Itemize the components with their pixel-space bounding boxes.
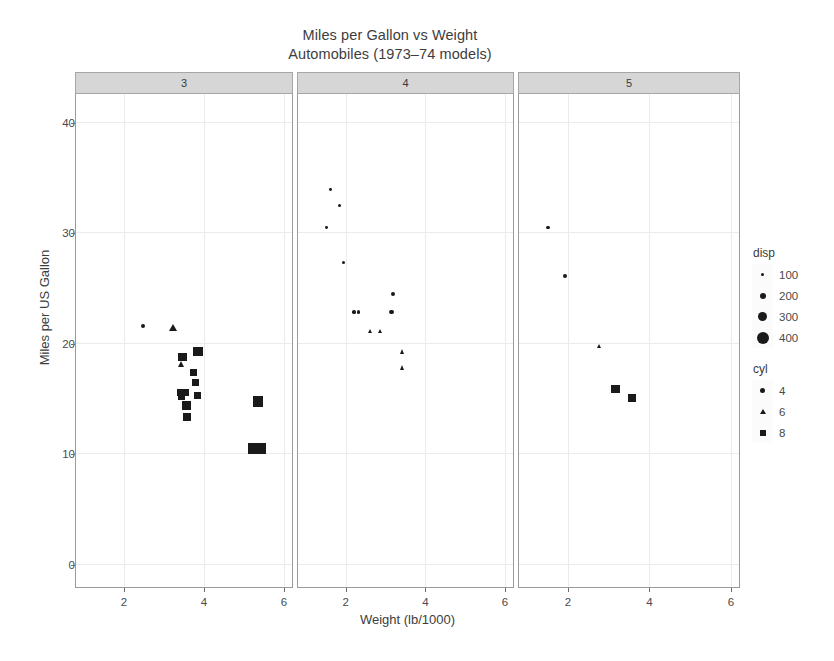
data-point [368, 329, 372, 333]
legend-item[interactable]: 100 [752, 264, 798, 285]
legend-label: 4 [779, 385, 785, 397]
gridline-horizontal [519, 122, 739, 123]
legend-glyph [760, 293, 766, 299]
data-point [338, 204, 341, 207]
x-tick-mark [505, 588, 506, 592]
x-tick-mark [284, 588, 285, 592]
chart-root: Miles per Gallon vs Weight Automobiles (… [0, 0, 834, 661]
legend-item[interactable]: 6 [752, 401, 785, 422]
legend-label: 300 [779, 311, 798, 323]
gridline-vertical [425, 94, 426, 587]
data-point [400, 365, 404, 370]
legend-label: 200 [779, 290, 798, 302]
legend-label: 400 [779, 332, 798, 344]
data-point [400, 349, 404, 354]
facet-strip-label: 5 [518, 72, 740, 94]
gridline-horizontal [519, 232, 739, 233]
data-point [325, 226, 328, 229]
data-point [389, 310, 393, 314]
legend-item[interactable]: 4 [752, 380, 785, 401]
facet-strip-label: 3 [75, 72, 293, 94]
data-point [352, 310, 356, 314]
legend-label: 6 [779, 406, 785, 418]
gridline-horizontal [298, 343, 513, 344]
chart-subtitle: Automobiles (1973–74 models) [0, 45, 780, 64]
legend-glyph [757, 332, 769, 344]
data-point [329, 188, 332, 191]
x-axis-label: Weight (lb/1000) [75, 612, 740, 627]
data-point [141, 324, 145, 328]
legend-disp: disp100200300400 [752, 246, 798, 348]
data-point [628, 394, 635, 401]
legend-item[interactable]: 200 [752, 285, 798, 306]
data-point [192, 379, 199, 386]
legend-glyph [761, 273, 764, 276]
gridline-horizontal [76, 232, 292, 233]
legend-glyph [760, 388, 765, 393]
legend-key-circle-icon [752, 306, 773, 327]
gridline-vertical [124, 94, 125, 587]
data-point [178, 353, 187, 362]
legend-cyl: cyl468 [752, 362, 785, 443]
x-tick-mark [649, 588, 650, 592]
data-point [183, 413, 192, 422]
x-tick-label: 2 [121, 596, 127, 608]
x-tick-label: 6 [281, 596, 287, 608]
data-point [193, 347, 203, 357]
data-point [194, 392, 201, 399]
data-point [169, 324, 177, 331]
page-title: Miles per Gallon vs Weight [0, 26, 780, 45]
gridline-horizontal [76, 122, 292, 123]
x-tick-label: 6 [502, 596, 508, 608]
x-tick-mark [346, 588, 347, 592]
data-point [256, 443, 267, 454]
legend-item[interactable]: 400 [752, 327, 798, 348]
data-point [253, 396, 263, 406]
data-point [378, 329, 382, 333]
plot-area [297, 94, 514, 588]
facet-panel: 3 [75, 72, 293, 588]
gridline-vertical [505, 94, 506, 587]
plot-area [518, 94, 740, 588]
facet-panel: 4 [297, 72, 514, 588]
legend-item[interactable]: 8 [752, 422, 785, 443]
data-point [611, 385, 620, 394]
x-tick-mark [568, 588, 569, 592]
data-point [178, 392, 186, 400]
legend-key-circle-icon [752, 285, 773, 306]
gridline-vertical [731, 94, 732, 587]
x-tick-mark [731, 588, 732, 592]
legend-glyph [760, 430, 766, 436]
facet-strip-label: 4 [297, 72, 514, 94]
title-block: Miles per Gallon vs Weight Automobiles (… [0, 26, 780, 63]
legend-key-circle-icon [752, 380, 773, 401]
data-point [190, 369, 197, 376]
gridline-vertical [204, 94, 205, 587]
gridline-horizontal [76, 343, 292, 344]
gridline-horizontal [76, 564, 292, 565]
x-tick-label: 4 [201, 596, 207, 608]
facet-panel: 5 [518, 72, 740, 588]
x-tick-label: 6 [728, 596, 734, 608]
y-axis-ticks: 010203040 [42, 0, 75, 661]
x-tick-label: 2 [343, 596, 349, 608]
x-tick-mark [425, 588, 426, 592]
legend-glyph [760, 409, 766, 414]
gridline-horizontal [298, 122, 513, 123]
legend-glyph [758, 312, 767, 321]
x-tick-mark [204, 588, 205, 592]
legend-title: disp [753, 246, 798, 260]
legend-key-circle-icon [752, 327, 773, 348]
plot-area [75, 94, 293, 588]
gridline-vertical [346, 94, 347, 587]
legend-title: cyl [753, 362, 785, 376]
data-point [357, 310, 361, 314]
legend-item[interactable]: 300 [752, 306, 798, 327]
gridline-horizontal [298, 453, 513, 454]
data-point [546, 226, 549, 229]
data-point [563, 274, 567, 278]
data-point [342, 261, 345, 264]
legend-label: 100 [779, 269, 798, 281]
legend-key-circle-icon [752, 264, 773, 285]
gridline-horizontal [298, 564, 513, 565]
